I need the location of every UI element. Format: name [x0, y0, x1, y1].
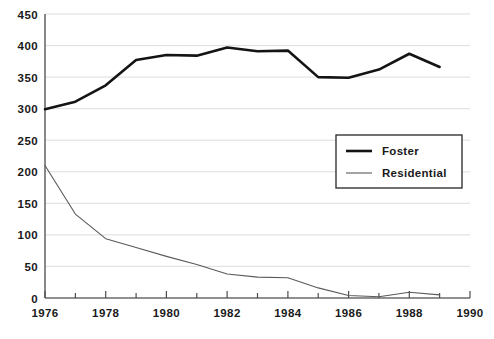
y-tick-label-450: 450: [18, 9, 38, 21]
line-chart: 450 400 350 300 250 200 150 100 50 0 197…: [0, 0, 494, 339]
x-tick-label-1988: 1988: [396, 307, 423, 319]
y-tick-label-350: 350: [18, 72, 38, 84]
legend-box: [336, 135, 462, 188]
series-line-foster: [45, 47, 440, 109]
y-tick-label-150: 150: [18, 198, 38, 210]
y-axis-tick-labels: 450 400 350 300 250 200 150 100 50 0: [18, 9, 38, 305]
legend-label-residential: Residential: [382, 167, 447, 179]
x-tick-label-1976: 1976: [31, 307, 58, 319]
y-tick-label-200: 200: [18, 166, 38, 178]
y-tick-label-100: 100: [18, 229, 38, 241]
x-axis-tick-labels: 1976 1978 1980 1982 1984 1986 1988 1990: [31, 307, 483, 319]
x-tick-label-1990: 1990: [456, 307, 483, 319]
y-tick-label-300: 300: [18, 103, 38, 115]
x-tick-label-1980: 1980: [153, 307, 180, 319]
y-tick-label-250: 250: [18, 135, 38, 147]
chart-canvas: 450 400 350 300 250 200 150 100 50 0 197…: [0, 0, 494, 339]
x-axis-tick-marks: [45, 291, 470, 298]
x-tick-label-1982: 1982: [214, 307, 241, 319]
x-tick-label-1986: 1986: [335, 307, 362, 319]
y-tick-label-50: 50: [24, 261, 38, 273]
x-tick-label-1978: 1978: [92, 307, 119, 319]
legend: Foster Residential: [336, 135, 462, 188]
y-tick-label-400: 400: [18, 40, 38, 52]
x-tick-label-1984: 1984: [274, 307, 301, 319]
y-tick-label-0: 0: [31, 293, 38, 305]
legend-label-foster: Foster: [382, 145, 419, 157]
